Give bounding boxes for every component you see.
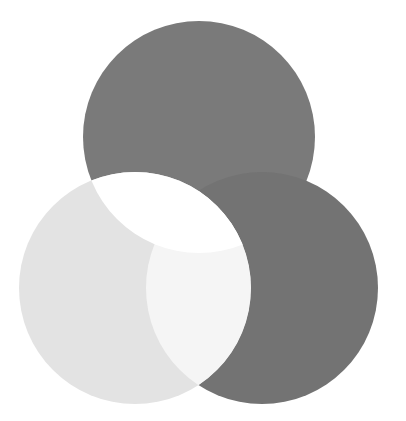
venn-diagram xyxy=(0,0,406,421)
